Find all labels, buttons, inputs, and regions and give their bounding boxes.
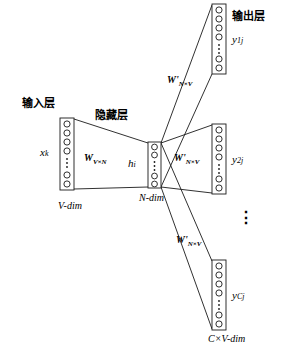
input-dot xyxy=(66,162,68,164)
diagram-canvas: 输入层 隐藏层 输出层 xk hi y1j y2j yCj WV×N W'N×V… xyxy=(0,0,285,357)
hidden-layer-group xyxy=(148,142,161,188)
input-layer-group xyxy=(60,118,74,190)
weight-out-3-subscript: N×V xyxy=(188,240,202,248)
output-2-subscript: 2j xyxy=(237,156,243,165)
output-top-node xyxy=(216,65,222,71)
input-dim-label: V-dim xyxy=(58,201,82,211)
weight-out-1-label: W'N×V xyxy=(167,75,192,88)
output-mid-dot xyxy=(218,168,220,170)
input-vector-label: xk xyxy=(40,147,48,158)
output-mid-node xyxy=(216,127,222,133)
weight-out-3-label: W'N×V xyxy=(176,235,201,248)
edge-input-hidden-bottom xyxy=(74,187,148,189)
weight-input-symbol: W xyxy=(84,152,93,163)
weight-out-3-symbol: W' xyxy=(176,234,188,245)
edge-hidden-output-top-2 xyxy=(161,74,212,187)
hidden-node xyxy=(152,173,158,179)
output-bottom-dot xyxy=(218,308,220,310)
hidden-node xyxy=(152,181,158,187)
output-bottom-node xyxy=(216,281,222,287)
input-node xyxy=(64,148,70,154)
output-bottom-node xyxy=(216,312,222,318)
output-2-label: y2j xyxy=(232,154,243,165)
output-blocks-ellipsis: ⋮ xyxy=(238,210,254,226)
output-layer-top-group xyxy=(212,4,226,74)
output-top-node xyxy=(216,56,222,62)
weight-input-label: WV×N xyxy=(84,153,107,166)
output-bottom-node xyxy=(216,321,222,327)
weight-input-subscript: V×N xyxy=(93,158,107,166)
output-layer-label: 输出层 xyxy=(232,11,265,22)
output-mid-node xyxy=(216,145,222,151)
input-dot xyxy=(66,158,68,160)
output-3-subscript: Cj xyxy=(237,292,245,301)
input-dot xyxy=(66,166,68,168)
hidden-node xyxy=(152,152,158,158)
weight-out-1-symbol: W' xyxy=(167,74,179,85)
output-layer-mid-group xyxy=(212,124,226,194)
input-layer-label: 输入层 xyxy=(22,98,55,109)
output-mid-node xyxy=(216,185,222,191)
edge-hidden-output-bottom-2 xyxy=(161,187,212,329)
hidden-node xyxy=(152,144,158,150)
diagram-svg xyxy=(0,0,285,357)
output-top-node xyxy=(216,16,222,22)
output-dim-label: C×V-dim xyxy=(208,334,245,344)
output-mid-dot xyxy=(218,172,220,174)
weight-out-2-label: W'N×V xyxy=(174,153,199,166)
output-layer-bottom-group xyxy=(212,260,226,330)
output-top-dot xyxy=(218,48,220,50)
output-bottom-node xyxy=(216,272,222,278)
weight-out-1-subscript: N×V xyxy=(179,80,193,88)
output-top-dot xyxy=(218,44,220,46)
hidden-dim-label: N-dim xyxy=(139,193,164,203)
output-bottom-dot xyxy=(218,300,220,302)
edge-hidden-output-mid-2 xyxy=(161,187,212,193)
input-node xyxy=(64,130,70,136)
edge-hidden-output-mid-1 xyxy=(161,125,212,143)
hidden-dot xyxy=(154,169,156,171)
output-bottom-node xyxy=(216,263,222,269)
input-node xyxy=(64,139,70,145)
output-mid-dot xyxy=(218,164,220,166)
weight-out-2-subscript: N×V xyxy=(186,158,200,166)
output-top-node xyxy=(216,7,222,13)
input-node xyxy=(64,172,70,178)
output-mid-node xyxy=(216,154,222,160)
output-top-node xyxy=(216,25,222,31)
input-node xyxy=(64,181,70,187)
hidden-layer-label: 隐藏层 xyxy=(95,110,128,121)
output-mid-node xyxy=(216,136,222,142)
output-1-subscript: 1j xyxy=(237,36,243,45)
output-top-node xyxy=(216,34,222,40)
output-mid-node xyxy=(216,176,222,182)
input-dim-text: V-dim xyxy=(58,200,82,211)
hidden-vector-label: hi xyxy=(128,158,136,169)
output-bottom-node xyxy=(216,290,222,296)
hidden-dim-text: N-dim xyxy=(139,192,164,203)
input-node xyxy=(64,121,70,127)
output-dim-text: C×V-dim xyxy=(208,333,245,344)
output-bottom-dot xyxy=(218,304,220,306)
input-vector-subscript: k xyxy=(45,149,49,158)
hidden-dot xyxy=(154,161,156,163)
hidden-dot xyxy=(154,165,156,167)
output-top-dot xyxy=(218,52,220,54)
weight-out-2-symbol: W' xyxy=(174,152,186,163)
hidden-vector-subscript: i xyxy=(134,160,136,169)
output-1-label: y1j xyxy=(232,34,243,45)
edge-input-hidden-top xyxy=(74,119,148,143)
output-3-label: yCj xyxy=(232,290,244,301)
